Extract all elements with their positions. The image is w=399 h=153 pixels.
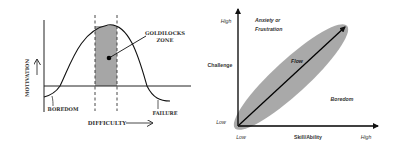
boredom-pointer (52, 96, 53, 106)
flow-label: Flow (291, 58, 304, 64)
difficulty-label: DIFFICULTY (88, 120, 126, 126)
diagram-canvas: MOTIVATION GOLDILOCKS ZONE BOREDOM FAILU… (0, 0, 399, 153)
goldilocks-chart: MOTIVATION GOLDILOCKS ZONE BOREDOM FAILU… (24, 15, 191, 126)
x-low-label: Low (236, 134, 247, 140)
flow-diagonal-arrow-icon (239, 27, 345, 125)
anxiety-label-line1: Anxiety or (254, 17, 281, 23)
anxiety-label-line2: Frustration (255, 26, 282, 32)
challenge-label: Challenge (208, 62, 233, 68)
skill-ability-label: Skill/Ability (294, 134, 322, 140)
goldilocks-label-line2: ZONE (156, 37, 173, 43)
boredom-region-label: Boredom (331, 96, 354, 102)
x-high-label: High (361, 134, 372, 140)
boredom-label: BOREDOM (48, 106, 79, 112)
goldilocks-label-line1: GOLDILOCKS (145, 30, 185, 36)
failure-label: FAILURE (152, 110, 177, 116)
goldilocks-shaded-zone (95, 26, 117, 86)
y-high-label: High (221, 18, 232, 24)
motivation-label: MOTIVATION (24, 59, 30, 97)
y-low-label: Low (216, 119, 227, 125)
flow-chart: High Anxiety or Frustration Challenge Fl… (208, 9, 378, 141)
